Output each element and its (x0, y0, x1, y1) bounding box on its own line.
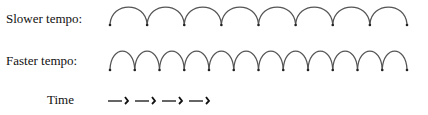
beat-dot (294, 24, 297, 27)
beat-arc (333, 51, 358, 69)
beat-dot (282, 69, 285, 72)
beat-dot (406, 69, 409, 72)
beat-arc (370, 7, 407, 24)
beat-dot (381, 69, 384, 72)
time-arrows (108, 97, 209, 104)
beat-dot (356, 69, 359, 72)
beat-arc (184, 7, 221, 24)
beat-dot (331, 69, 334, 72)
beat-dot (158, 69, 161, 72)
arrow-head-icon (125, 97, 128, 104)
beat-arc (259, 51, 284, 69)
beat-arc (209, 51, 234, 69)
beat-arc (296, 7, 333, 24)
arrow-head-icon (206, 97, 209, 104)
beat-arc (184, 51, 209, 69)
beat-arc (358, 51, 383, 69)
beat-arc (221, 7, 258, 24)
beat-arc (333, 7, 370, 24)
beat-arc (308, 51, 333, 69)
arrow-head-icon (152, 97, 155, 104)
beat-arc (382, 51, 407, 69)
beat-dot (109, 24, 112, 27)
beat-arc (110, 51, 135, 69)
beat-arc (283, 51, 308, 69)
beat-dot (220, 24, 223, 27)
arrow-head-icon (179, 97, 182, 104)
faster-tempo-arcs (109, 51, 409, 71)
tempo-diagram (0, 0, 428, 115)
beat-dot (183, 24, 186, 27)
beat-dot (183, 69, 186, 72)
beat-dot (109, 69, 112, 72)
beat-arc (259, 7, 296, 24)
beat-dot (208, 69, 211, 72)
beat-arc (160, 51, 185, 69)
beat-dot (257, 69, 260, 72)
beat-dot (257, 24, 260, 27)
beat-dot (232, 69, 235, 72)
beat-dot (133, 69, 136, 72)
beat-dot (331, 24, 334, 27)
beat-dot (406, 24, 409, 27)
beat-dot (307, 69, 310, 72)
beat-dot (369, 24, 372, 27)
slower-tempo-arcs (109, 7, 409, 26)
beat-arc (234, 51, 259, 69)
beat-arc (147, 7, 184, 24)
beat-dot (146, 24, 149, 27)
beat-arc (110, 7, 147, 24)
beat-arc (135, 51, 160, 69)
